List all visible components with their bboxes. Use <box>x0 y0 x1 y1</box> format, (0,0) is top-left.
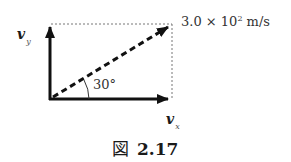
figure-caption: 図2.17 <box>112 135 178 160</box>
vy-label: vy <box>17 26 30 42</box>
angle-arc <box>84 80 89 99</box>
magnitude-label: 3.0 × 102 m/s <box>181 14 270 29</box>
angle-label: 30° <box>93 77 116 92</box>
vx-label: vx <box>166 111 179 127</box>
